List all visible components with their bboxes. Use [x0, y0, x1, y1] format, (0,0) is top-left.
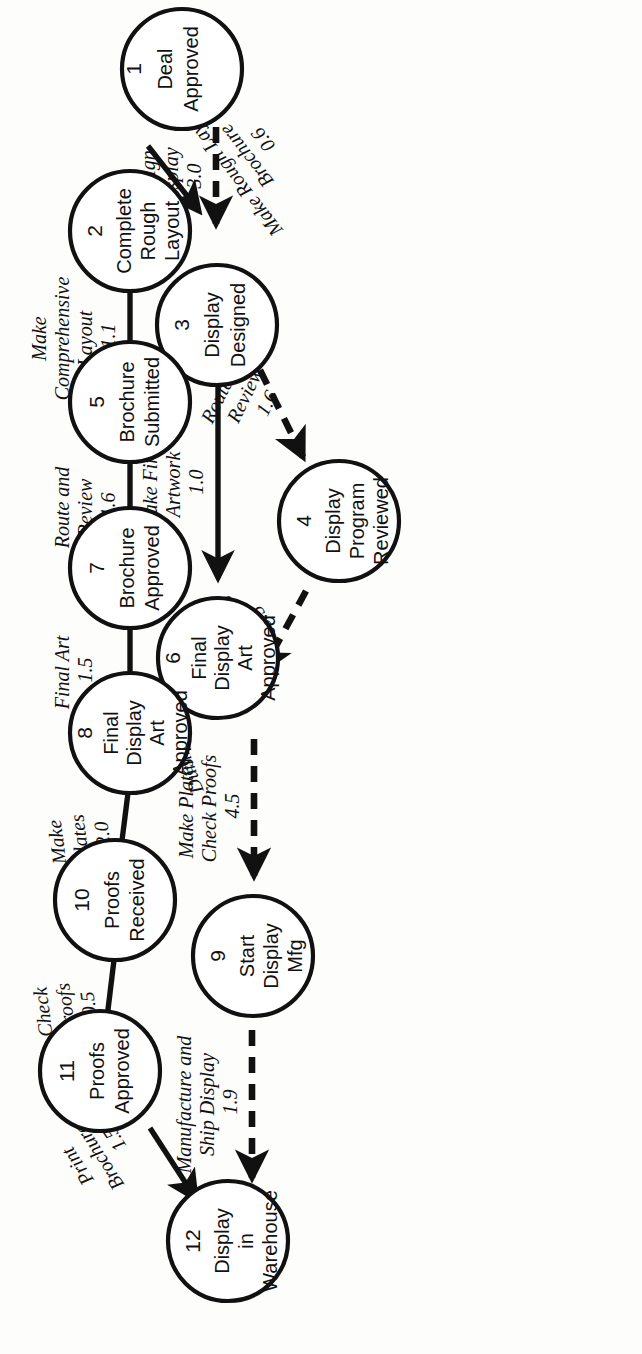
edge-2-5-label-line2: Comprehensive	[51, 277, 74, 401]
node-1-line1: Deal	[154, 48, 176, 89]
edge-1-3-duration: 3.0	[183, 164, 205, 190]
node-8-line2: Display	[123, 700, 145, 766]
node-7-number: 7	[85, 562, 108, 574]
edge-7-8-duration: 1.5	[74, 658, 96, 683]
edge-7-8-label-line1: Final Art	[51, 635, 73, 710]
network-diagram-svg: Make Rough Layout Brochure 0.6 Make Comp…	[0, 0, 642, 1354]
node-11-line2: Approved	[111, 1028, 133, 1114]
node-8-number: 8	[73, 727, 96, 739]
node-11[interactable]: 11 Proofs Approved	[40, 1011, 160, 1131]
edge-3-6-label-line2: Artwork	[162, 451, 184, 520]
node-1[interactable]: 1 Deal Approved	[122, 9, 242, 129]
rotated-canvas: Make Rough Layout Brochure 0.6 Make Comp…	[0, 0, 642, 1354]
edge-6-9-duration: 4.5	[221, 794, 243, 819]
node-8-line3: Art	[146, 720, 168, 746]
edge-9-12-label-line2: Ship Display	[196, 1053, 219, 1156]
node-4-number: 4	[292, 515, 315, 527]
node-1-line2: Approved	[180, 26, 202, 112]
node-6-number: 6	[161, 652, 184, 664]
node-5-number: 5	[85, 396, 108, 408]
node-3-line2: Designed	[227, 283, 249, 368]
node-12[interactable]: 12 Display in Warehouse	[168, 1181, 288, 1301]
node-4-line1: Display	[322, 488, 344, 554]
node-6-line1: Final	[188, 636, 210, 679]
edge-9-12[interactable]: Manufacture and Ship Display 1.9	[173, 1030, 252, 1178]
node-2-line1: Complete	[113, 188, 135, 274]
node-5[interactable]: 5 Brochure Submitted	[70, 342, 190, 462]
edge-6-9-label-line2: Check Proofs	[198, 755, 221, 863]
edge-9-12-duration: 1.9	[219, 1090, 241, 1115]
node-6-line2: Display	[211, 625, 233, 691]
node-4-line2: Program	[346, 483, 368, 560]
svg-text:Manufacture and Sh: Manufacture and Ship Display 1.9	[173, 1031, 241, 1175]
node-5-line2: Submitted	[141, 357, 163, 447]
node-10-line2: Received	[126, 858, 148, 941]
node-7-line2: Approved	[141, 525, 163, 611]
node-8-line1: Final	[100, 711, 122, 754]
node-7-line1: Brochure	[116, 527, 138, 608]
node-2-number: 2	[83, 225, 106, 237]
node-2[interactable]: 2 Complete Rough Layout	[70, 171, 190, 291]
node-3-line1: Display	[201, 292, 223, 358]
node-10[interactable]: 10 Proofs Received	[55, 840, 175, 960]
node-4[interactable]: 4 Display Program Reviewed	[279, 461, 399, 581]
node-10-number: 10	[70, 888, 93, 911]
node-1-number: 1	[122, 63, 145, 75]
node-12-line3: Warehouse	[259, 1190, 281, 1292]
diagram-page: Make Rough Layout Brochure 0.6 Make Comp…	[0, 0, 642, 1354]
node-3-number: 3	[170, 319, 193, 331]
edge-2-5-label-line1: Make	[28, 316, 50, 362]
edge-9-12-label-line1: Manufacture and	[173, 1035, 196, 1175]
node-8[interactable]: 8 Final Display Art Approved	[70, 673, 191, 793]
node-9[interactable]: 9 Start Display Mfg	[193, 896, 313, 1016]
node-12-line2: in	[235, 1233, 257, 1249]
node-6-line3: Art	[234, 645, 256, 671]
node-9-line1: Start	[236, 934, 258, 977]
node-12-number: 12	[181, 1229, 204, 1252]
node-2-line2: Rough	[137, 202, 159, 261]
node-9-number: 9	[206, 950, 229, 962]
node-7[interactable]: 7 Brochure Approved	[70, 508, 190, 628]
edge-3-6-duration: 1.0	[185, 470, 207, 495]
node-9-line3: Mfg	[284, 939, 306, 972]
node-12-line1: Display	[211, 1208, 233, 1274]
node-11-line1: Proofs	[86, 1042, 108, 1100]
node-9-line2: Display	[260, 923, 282, 989]
edge-5-7-label-line1: Route and	[51, 466, 73, 550]
node-10-line1: Proofs	[101, 871, 123, 929]
node-11-number: 11	[55, 1060, 78, 1082]
node-6-line4: Approved	[257, 615, 279, 701]
node-2-line3: Layout	[161, 201, 183, 261]
node-5-line1: Brochure	[116, 361, 138, 442]
node-4-line3: Reviewed	[370, 477, 392, 565]
node-8-line4: Approved	[169, 690, 191, 776]
